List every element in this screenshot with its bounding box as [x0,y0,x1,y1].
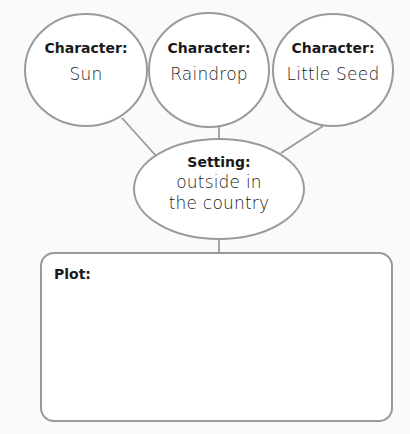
character-label: Character: [149,40,269,56]
setting-value-line2: the country [144,193,294,214]
character-node-little-seed: Character: Little Seed [271,40,395,84]
character-value: Little Seed [271,64,395,84]
setting-value-line1: outside in [144,172,294,193]
character-label: Character: [26,40,146,56]
character-value: Sun [26,64,146,84]
character-value: Raindrop [149,64,269,84]
plot-label: Plot: [54,266,91,282]
story-map-diagram: Character: Sun Character: Raindrop Chara… [0,0,410,434]
setting-node: Setting: outside in the country [144,154,294,214]
plot-box[interactable]: Plot: [40,252,393,422]
setting-label: Setting: [144,154,294,170]
character-node-raindrop: Character: Raindrop [149,40,269,84]
character-node-sun: Character: Sun [26,40,146,84]
character-label: Character: [271,40,395,56]
